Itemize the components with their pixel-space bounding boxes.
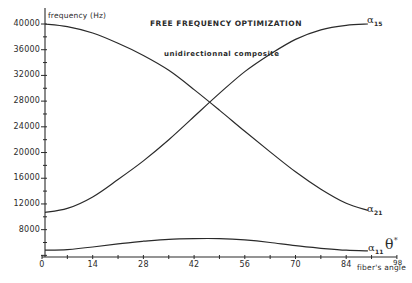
frequency-chart: 4000036000320002800024000200001600012000…	[0, 0, 412, 283]
y-tick-label: 36000	[0, 45, 40, 54]
series-label-alpha21: α21	[367, 203, 383, 216]
y-tick-label: 28000	[0, 96, 40, 105]
y-tick-label: 8000	[0, 225, 40, 234]
y-tick-label: 20000	[0, 148, 40, 157]
theta-star-annotation: θ*	[385, 236, 398, 252]
x-tick-label: 84	[341, 260, 352, 269]
chart-title: FREE FREQUENCY OPTIMIZATION	[150, 19, 302, 28]
series-label-alpha15: α15	[367, 14, 383, 27]
plot-area	[0, 0, 412, 283]
y-tick-label: 40000	[0, 19, 40, 28]
y-tick-label: 32000	[0, 70, 40, 79]
y-tick-label: 16000	[0, 173, 40, 182]
x-tick-label: 56	[240, 260, 251, 269]
x-tick-98: 98	[393, 259, 402, 267]
x-tick-label: 70	[290, 260, 301, 269]
curve-α11	[45, 239, 368, 251]
chart-subtitle: unidirectionnal composite	[164, 50, 279, 58]
x-tick-label: 0	[39, 260, 44, 269]
axes	[41, 8, 397, 259]
x-tick-label: 42	[189, 260, 200, 269]
x-tick-label: 14	[87, 260, 98, 269]
series-label-alpha11: α11	[368, 242, 384, 255]
x-tick-label: 28	[138, 260, 149, 269]
y-tick-label: 24000	[0, 122, 40, 131]
y-axis-label: frequency (Hz)	[48, 11, 106, 20]
curves	[45, 24, 368, 251]
y-tick-label: 12000	[0, 199, 40, 208]
